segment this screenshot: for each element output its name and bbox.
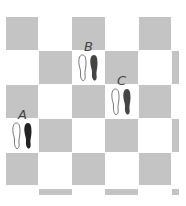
footprints-b-icon (77, 54, 101, 82)
gray-square (39, 189, 72, 195)
gray-square (105, 189, 138, 195)
footprints-a-icon (11, 122, 35, 150)
position-label-b: B (84, 39, 93, 54)
gray-square (139, 17, 171, 50)
gray-square (139, 153, 171, 185)
gray-square (172, 51, 179, 84)
gray-square (72, 85, 105, 118)
gray-square (172, 119, 179, 152)
position-label-a: A (18, 107, 27, 122)
gray-square (72, 153, 105, 185)
gray-square (6, 153, 38, 185)
gray-square (6, 17, 38, 50)
position-label-c: C (117, 73, 126, 88)
gray-square (39, 119, 72, 152)
footprints-c-icon (110, 88, 134, 116)
gray-square (105, 119, 138, 152)
gray-square (39, 51, 72, 84)
gray-square (139, 85, 171, 118)
gray-square (172, 189, 179, 195)
